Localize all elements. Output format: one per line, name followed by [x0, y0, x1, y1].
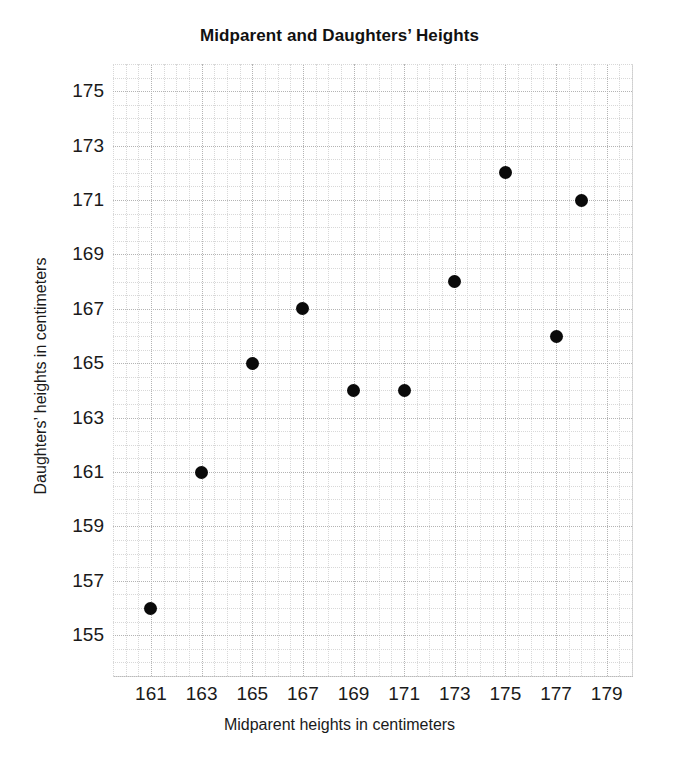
x-axis-tick-labels: 161163165167169171173175177179	[113, 683, 632, 711]
data-point	[550, 330, 563, 343]
gridline-horizontal-major	[113, 472, 632, 473]
gridline-horizontal-minor	[113, 64, 632, 65]
gridline-horizontal-major	[113, 146, 632, 147]
gridline-horizontal-minor	[113, 322, 632, 323]
gridline-horizontal-minor	[113, 622, 632, 623]
gridline-vertical-minor	[581, 64, 582, 676]
gridline-horizontal-minor	[113, 513, 632, 514]
gridline-vertical-minor	[113, 64, 114, 676]
gridline-horizontal-minor	[113, 227, 632, 228]
gridline-vertical-minor	[240, 64, 241, 676]
gridline-horizontal-minor	[113, 350, 632, 351]
gridline-vertical-minor	[138, 64, 139, 676]
gridline-horizontal-minor	[113, 649, 632, 650]
gridline-vertical-minor	[227, 64, 228, 676]
chart-title: Midparent and Daughters’ Heights	[0, 26, 679, 46]
gridline-horizontal-minor	[113, 118, 632, 119]
y-tick-label: 155	[56, 624, 104, 646]
gridline-vertical-minor	[543, 64, 544, 676]
gridline-vertical-major	[505, 64, 506, 676]
gridline-horizontal-major	[113, 91, 632, 92]
y-tick-label: 175	[56, 80, 104, 102]
gridline-vertical-major	[303, 64, 304, 676]
gridline-vertical-minor	[176, 64, 177, 676]
gridline-horizontal-minor	[113, 295, 632, 296]
gridline-horizontal-minor	[113, 390, 632, 391]
gridline-vertical-minor	[493, 64, 494, 676]
data-point	[144, 602, 157, 615]
gridline-vertical-minor	[518, 64, 519, 676]
gridline-horizontal-minor	[113, 214, 632, 215]
gridline-vertical-major	[354, 64, 355, 676]
gridline-horizontal-minor	[113, 377, 632, 378]
gridline-vertical-major	[455, 64, 456, 676]
gridline-vertical-major	[151, 64, 152, 676]
data-point	[195, 466, 208, 479]
data-point	[347, 384, 360, 397]
gridline-horizontal-minor	[113, 608, 632, 609]
gridline-vertical-minor	[265, 64, 266, 676]
gridline-vertical-minor	[341, 64, 342, 676]
gridline-horizontal-minor	[113, 404, 632, 405]
gridline-horizontal-minor	[113, 445, 632, 446]
y-axis-tick-labels: 155157159161163165167169171173175	[56, 64, 104, 676]
y-tick-label: 173	[56, 135, 104, 157]
gridline-horizontal-minor	[113, 268, 632, 269]
gridline-vertical-minor	[189, 64, 190, 676]
gridline-horizontal-minor	[113, 186, 632, 187]
data-point	[296, 302, 309, 315]
gridline-horizontal-minor	[113, 431, 632, 432]
y-tick-label: 161	[56, 461, 104, 483]
gridline-horizontal-major	[113, 363, 632, 364]
gridline-horizontal-minor	[113, 458, 632, 459]
gridline-vertical-minor	[429, 64, 430, 676]
gridline-horizontal-minor	[113, 662, 632, 663]
y-tick-label: 163	[56, 407, 104, 429]
scatter-chart: Midparent and Daughters’ Heights 1551571…	[0, 0, 679, 772]
gridline-vertical-minor	[328, 64, 329, 676]
gridline-horizontal-minor	[113, 241, 632, 242]
x-tick-label: 179	[577, 683, 637, 705]
gridline-horizontal-minor	[113, 159, 632, 160]
y-tick-label: 157	[56, 570, 104, 592]
gridline-vertical-minor	[417, 64, 418, 676]
gridline-vertical-minor	[278, 64, 279, 676]
gridline-vertical-minor	[531, 64, 532, 676]
gridline-horizontal-minor	[113, 486, 632, 487]
gridline-horizontal-major	[113, 418, 632, 419]
gridline-vertical-minor	[214, 64, 215, 676]
plot-area	[113, 64, 632, 676]
data-point	[398, 384, 411, 397]
gridline-vertical-minor	[569, 64, 570, 676]
gridline-vertical-minor	[619, 64, 620, 676]
gridline-horizontal-minor	[113, 173, 632, 174]
gridline-vertical-minor	[594, 64, 595, 676]
gridline-vertical-minor	[391, 64, 392, 676]
y-tick-label: 165	[56, 352, 104, 374]
y-tick-label: 167	[56, 298, 104, 320]
gridline-vertical-major	[252, 64, 253, 676]
data-point	[448, 275, 461, 288]
gridline-vertical-major	[556, 64, 557, 676]
gridline-horizontal-minor	[113, 499, 632, 500]
gridline-horizontal-minor	[113, 540, 632, 541]
gridline-vertical-minor	[290, 64, 291, 676]
gridline-vertical-minor	[442, 64, 443, 676]
gridline-vertical-major	[202, 64, 203, 676]
data-point	[246, 357, 259, 370]
y-axis-title: Daughters’ heights in centimeters	[32, 70, 50, 682]
gridline-horizontal-major	[113, 254, 632, 255]
gridline-horizontal-minor	[113, 594, 632, 595]
gridline-vertical-minor	[366, 64, 367, 676]
gridline-horizontal-major	[113, 581, 632, 582]
x-axis-title: Midparent heights in centimeters	[0, 716, 679, 734]
gridline-vertical-minor	[632, 64, 633, 676]
y-tick-label: 171	[56, 189, 104, 211]
gridline-vertical-minor	[164, 64, 165, 676]
data-point	[499, 166, 512, 179]
gridline-horizontal-major	[113, 635, 632, 636]
gridline-vertical-major	[404, 64, 405, 676]
data-point	[575, 194, 588, 207]
gridline-horizontal-minor	[113, 282, 632, 283]
gridline-vertical-minor	[467, 64, 468, 676]
